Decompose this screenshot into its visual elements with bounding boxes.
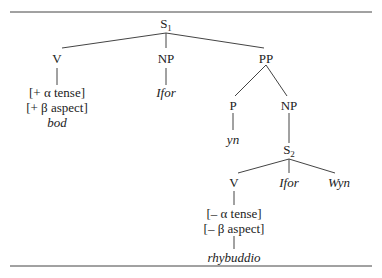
node-s2-sub: 2: [290, 149, 295, 159]
s2-ifor: Ifor: [279, 176, 299, 189]
s2-wyn: Wyn: [328, 176, 350, 189]
node-s1-sub: 1: [167, 23, 172, 33]
node-v2: V: [229, 176, 238, 189]
node-s2: S2: [283, 143, 295, 159]
v1-feature-tense: [+ α tense]: [29, 86, 85, 99]
v2-word: rhybuddio: [207, 251, 260, 264]
node-p: P: [229, 99, 236, 112]
v1-word: bod: [47, 116, 67, 129]
p-word: yn: [227, 133, 239, 146]
np1-word: Ifor: [156, 86, 176, 99]
tree-lines: [0, 0, 382, 278]
node-pp: PP: [259, 52, 273, 65]
v2-feature-aspect: [– β aspect]: [204, 222, 265, 235]
v2-feature-tense: [– α tense]: [206, 207, 261, 220]
node-v1: V: [52, 52, 61, 65]
node-s1: S1: [160, 17, 172, 33]
node-np2: NP: [281, 99, 298, 112]
v1-feature-aspect: [+ β aspect]: [26, 101, 88, 114]
node-np1: NP: [158, 52, 175, 65]
